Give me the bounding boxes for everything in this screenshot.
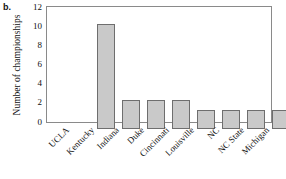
x-tick-label: Indiana	[95, 125, 121, 151]
x-axis-tick-labels: UCLAKentuckyIndianaDukeCincinnatiLouisvi…	[0, 0, 286, 179]
x-tick-label: NC	[205, 125, 221, 141]
x-tick-label: Duke	[125, 125, 146, 146]
figure-panel: b. Number of championships 024681012 UCL…	[0, 0, 286, 179]
